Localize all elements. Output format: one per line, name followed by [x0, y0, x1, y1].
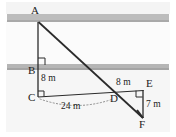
vertex-label-B: B	[28, 65, 35, 76]
vertex-label-C: C	[28, 92, 35, 103]
geometry-figure: A B C D E F 8 m 24 m 8 m 7 m	[0, 0, 176, 137]
dimension-label-bc: 8 m	[41, 74, 56, 84]
vertex-label-F: F	[139, 119, 145, 130]
vertex-label-D: D	[110, 93, 118, 104]
haze-mid	[6, 21, 170, 64]
dimension-label-cd: 24 m	[61, 102, 80, 112]
vertex-label-A: A	[31, 5, 39, 16]
dimension-label-ef: 7 m	[146, 100, 161, 110]
figure-canvas	[0, 0, 176, 137]
vertex-label-E: E	[146, 78, 153, 89]
dimension-label-de: 8 m	[116, 78, 131, 88]
upper-band-shade	[7, 20, 169, 22]
